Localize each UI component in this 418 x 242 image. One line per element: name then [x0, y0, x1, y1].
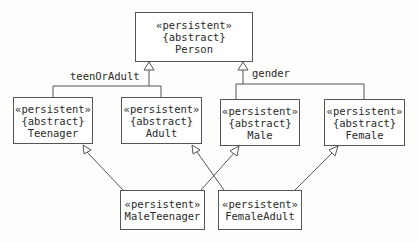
stereotype-label: «persistent» [15, 103, 91, 115]
generalization-set-label-gender: gender [252, 67, 290, 79]
class-female: «persistent» {abstract} Female [324, 99, 405, 146]
generalization-arrowhead-icon [192, 145, 200, 154]
stereotype-label: «persistent» [222, 198, 298, 210]
constraint-label: {abstract} [21, 115, 84, 127]
generalization-set-label-teenoradult: teenOrAdult [70, 70, 140, 82]
class-femaleadult: «persistent» FemaleAdult [218, 190, 302, 230]
generalization-arrowhead-icon [144, 62, 154, 70]
generalization-arrowhead-icon [83, 145, 91, 154]
stereotype-label: «persistent» [222, 105, 298, 117]
constraint-label: {abstract} [130, 115, 193, 127]
class-maleteenager: «persistent» MaleTeenager [120, 190, 205, 230]
stereotype-label: «persistent» [327, 105, 403, 117]
class-male: «persistent» {abstract} Male [220, 99, 300, 146]
stereotype-label: «persistent» [125, 198, 201, 210]
class-teenager: «persistent» {abstract} Teenager [13, 97, 93, 144]
class-name: Female [346, 129, 384, 141]
stereotype-label: «persistent» [156, 19, 232, 31]
class-name: Adult [146, 127, 178, 139]
generalization-arrowhead-icon [238, 62, 248, 70]
class-adult: «persistent» {abstract} Adult [121, 97, 202, 144]
class-person: «persistent» {abstract} Person [135, 12, 253, 62]
class-name: Male [247, 129, 272, 141]
constraint-label: {abstract} [228, 117, 291, 129]
stereotype-label: «persistent» [124, 103, 200, 115]
generalization-arrowhead-icon [230, 146, 239, 156]
class-name: FemaleAdult [225, 210, 295, 222]
class-name: Teenager [28, 127, 79, 139]
class-name: Person [175, 43, 213, 55]
constraint-label: {abstract} [162, 31, 225, 43]
constraint-label: {abstract} [333, 117, 396, 129]
class-name: MaleTeenager [125, 210, 201, 222]
